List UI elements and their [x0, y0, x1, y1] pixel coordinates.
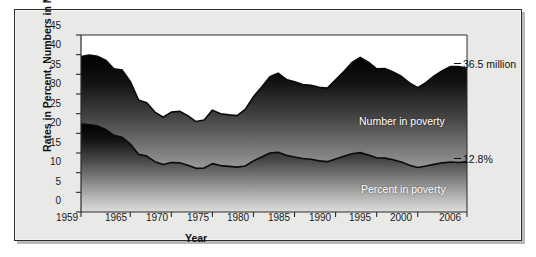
- y-tick-label: 10: [35, 157, 61, 167]
- x-tick-label: 2000: [381, 213, 421, 223]
- x-tick-label: 1990: [300, 213, 340, 223]
- y-tick-label: 0: [35, 196, 61, 206]
- chart-panel-frame: Rates in Percent, Numbers in Millions 45…: [14, 9, 522, 241]
- y-tick-label: 20: [35, 118, 61, 128]
- x-tick-label: 1985: [259, 213, 299, 223]
- x-tick-label: 1980: [218, 213, 258, 223]
- number-callout-label: 36.5 million: [463, 58, 516, 70]
- y-tick-marks: [76, 35, 81, 212]
- x-axis-title: Year: [185, 232, 207, 244]
- plot-area: Number in poverty Percent in poverty: [81, 35, 467, 212]
- x-tick-label: 1995: [340, 213, 380, 223]
- number-callout-dash: [454, 63, 461, 64]
- y-tick-label: 15: [35, 138, 61, 148]
- series-label-percent: Percent in poverty: [361, 183, 446, 195]
- y-tick-label: 30: [35, 79, 61, 89]
- percent-callout-label: 12.8%: [463, 153, 493, 165]
- y-tick-label: 25: [35, 99, 61, 109]
- y-tick-label: 45: [35, 21, 61, 31]
- y-tick-label: 35: [35, 60, 61, 70]
- x-tick-label: 2006: [430, 213, 470, 223]
- y-tick-label: 40: [35, 40, 61, 50]
- chart-screenshot: Rates in Percent, Numbers in Millions 45…: [0, 0, 536, 257]
- series-label-number: Number in poverty: [359, 115, 445, 127]
- percent-callout-dash: [454, 158, 461, 159]
- y-tick-label: 5: [35, 177, 61, 187]
